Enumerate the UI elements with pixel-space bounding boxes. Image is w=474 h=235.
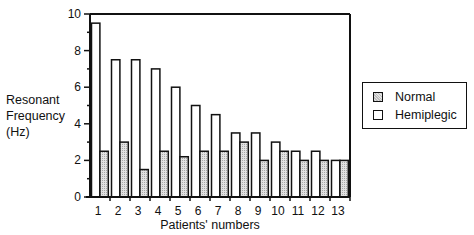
y-tick-label: 8 <box>74 44 81 58</box>
bar-normal <box>160 151 168 197</box>
y-tick-label: 10 <box>68 7 82 21</box>
y-axis-label: Resonant Frequency (Hz) <box>6 92 65 140</box>
normal-swatch-icon <box>373 92 383 102</box>
x-tick-label: 8 <box>235 204 242 218</box>
hemiplegic-swatch-icon <box>373 110 383 120</box>
y-tick-label: 6 <box>74 80 81 94</box>
bar-normal <box>180 157 188 197</box>
bar-hemiplegic <box>152 69 160 197</box>
bar-hemiplegic <box>232 133 240 197</box>
bar-hemiplegic <box>312 151 320 197</box>
x-tick-label: 4 <box>155 204 162 218</box>
x-tick-label: 12 <box>311 204 325 218</box>
y-tick-label: 2 <box>74 153 81 167</box>
bar-normal <box>320 160 328 197</box>
bar-normal <box>120 142 128 197</box>
bar-hemiplegic <box>272 142 280 197</box>
x-tick-label: 1 <box>95 204 102 218</box>
bar-normal <box>200 151 208 197</box>
x-tick-label: 2 <box>115 204 122 218</box>
y-tick-label: 4 <box>74 117 81 131</box>
bar-normal <box>300 160 308 197</box>
bar-normal <box>100 151 108 197</box>
x-axis-label: Patients' numbers <box>160 218 260 232</box>
x-tick-label: 3 <box>135 204 142 218</box>
y-label-line-3: (Hz) <box>6 124 65 140</box>
bar-normal <box>340 160 348 197</box>
x-tick-label: 6 <box>195 204 202 218</box>
bar-hemiplegic <box>132 60 140 197</box>
legend: Normal Hemiplegic <box>362 82 467 129</box>
x-tick-label: 5 <box>175 204 182 218</box>
bar-hemiplegic <box>212 115 220 197</box>
legend-item-normal: Normal <box>373 90 435 104</box>
y-label-line-2: Frequency <box>6 108 65 124</box>
bar-hemiplegic <box>112 60 120 197</box>
bar-normal <box>260 160 268 197</box>
bar-normal <box>140 170 148 197</box>
bar-normal <box>280 151 288 197</box>
bar-hemiplegic <box>332 160 340 197</box>
x-tick-label: 7 <box>215 204 222 218</box>
y-tick-label: 0 <box>74 190 81 204</box>
x-tick-label: 11 <box>292 204 305 218</box>
bar-normal <box>240 142 248 197</box>
bar-normal <box>220 151 228 197</box>
x-tick-label: 10 <box>271 204 285 218</box>
x-tick-label: 9 <box>255 204 262 218</box>
bar-hemiplegic <box>252 133 260 197</box>
bar-hemiplegic <box>92 23 100 197</box>
bar-hemiplegic <box>192 106 200 198</box>
legend-item-hemiplegic: Hemiplegic <box>373 108 457 122</box>
y-label-line-1: Resonant <box>6 92 65 108</box>
x-tick-label: 13 <box>331 204 345 218</box>
legend-label-hemiplegic: Hemiplegic <box>395 108 457 122</box>
bar-hemiplegic <box>292 151 300 197</box>
legend-label-normal: Normal <box>395 90 435 104</box>
bar-hemiplegic <box>172 87 180 197</box>
